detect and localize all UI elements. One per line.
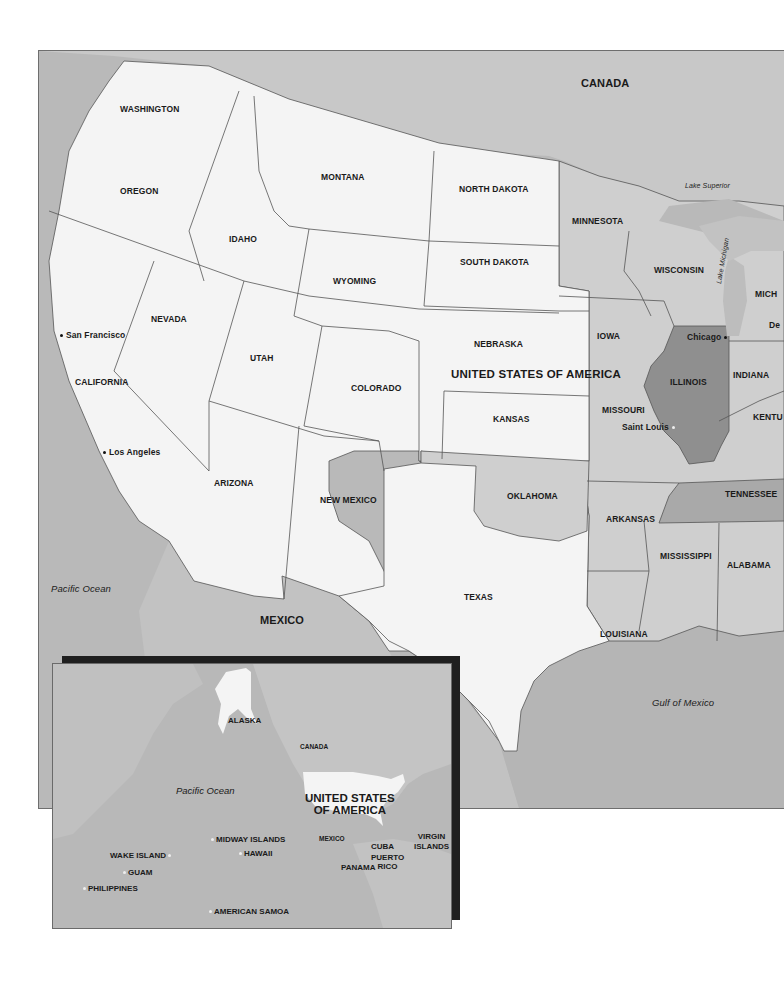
label-iowa: IOWA xyxy=(597,331,620,341)
label-kansas: KANSAS xyxy=(493,414,530,424)
label-wyoming: WYOMING xyxy=(333,276,376,286)
label-minnesota: MINNESOTA xyxy=(572,216,623,226)
label-missouri: MISSOURI xyxy=(602,405,645,415)
inset-asia-land xyxy=(53,664,203,839)
inset-label-virgin-islands: VIRGINISLANDS xyxy=(414,832,449,852)
label-arizona: ARIZONA xyxy=(214,478,253,488)
inset-label-alaska: ALASKA xyxy=(228,716,261,725)
island-marker-icon xyxy=(209,910,212,913)
city-dot-icon xyxy=(724,336,727,339)
label-oklahoma: OKLAHOMA xyxy=(507,491,558,501)
inset-label-panama: PANAMA xyxy=(341,863,376,872)
label-montana: MONTANA xyxy=(321,172,365,182)
label-pacific-ocean: Pacific Ocean xyxy=(51,583,111,594)
label-kentucky: KENTU xyxy=(753,412,783,422)
inset-label-wake-island: WAKE ISLAND xyxy=(110,851,173,860)
label-alabama: ALABAMA xyxy=(727,560,771,570)
label-gulf-of-mexico: Gulf of Mexico xyxy=(652,697,714,708)
city-dot-icon xyxy=(672,426,675,429)
inset-label-hawaii: HAWAII xyxy=(239,849,272,858)
label-louisiana: LOUISIANA xyxy=(600,629,648,639)
inset-label-midway: MIDWAY ISLANDS xyxy=(211,835,285,844)
label-usa: UNITED STATES OF AMERICA xyxy=(451,368,621,380)
label-mississippi: MISSISSIPPI xyxy=(660,551,712,561)
label-wisconsin: WISCONSIN xyxy=(654,265,704,275)
inset-world-map: ALASKA CANADA Pacific Ocean UNITED STATE… xyxy=(52,663,452,929)
label-indiana: INDIANA xyxy=(733,370,769,380)
city-los-angeles: Los Angeles xyxy=(100,447,160,457)
label-new-mexico: NEW MEXICO xyxy=(320,495,377,505)
label-utah: UTAH xyxy=(250,353,273,363)
label-tennessee: TENNESSEE xyxy=(725,489,777,499)
city-dot-icon xyxy=(103,451,106,454)
island-marker-icon xyxy=(83,887,86,890)
label-south-dakota: SOUTH DAKOTA xyxy=(460,257,529,267)
label-idaho: IDAHO xyxy=(229,234,257,244)
label-mexico: MEXICO xyxy=(260,614,304,626)
inset-label-guam: GUAM xyxy=(123,868,152,877)
label-lake-superior: Lake Superior xyxy=(685,182,730,189)
label-oregon: OREGON xyxy=(120,186,158,196)
inset-label-canada: CANADA xyxy=(300,743,328,750)
inset-label-mexico: MEXICO xyxy=(319,835,345,842)
inset-label-pacific-ocean: Pacific Ocean xyxy=(176,785,235,796)
label-texas: TEXAS xyxy=(464,592,493,602)
city-san-francisco: San Francisco xyxy=(57,330,125,340)
inset-label-cuba: CUBA xyxy=(371,842,394,851)
city-chicago: Chicago xyxy=(687,332,730,342)
island-marker-icon xyxy=(211,838,214,841)
label-detroit: De xyxy=(769,320,780,330)
inset-label-philippines: PHILIPPINES xyxy=(83,884,138,893)
label-arkansas: ARKANSAS xyxy=(606,514,655,524)
label-north-dakota: NORTH DAKOTA xyxy=(459,184,529,194)
label-michigan: MICH xyxy=(755,289,777,299)
label-illinois: ILLINOIS xyxy=(670,377,707,387)
city-saint-louis: Saint Louis xyxy=(622,422,678,432)
inset-label-usa: UNITED STATESOF AMERICA xyxy=(305,792,395,816)
label-nevada: NEVADA xyxy=(151,314,187,324)
label-nebraska: NEBRASKA xyxy=(474,339,523,349)
label-california: CALIFORNIA xyxy=(75,377,128,387)
island-marker-icon xyxy=(123,871,126,874)
label-washington: WASHINGTON xyxy=(120,104,179,114)
city-dot-icon xyxy=(60,334,63,337)
inset-label-american-samoa: AMERICAN SAMOA xyxy=(209,907,289,916)
label-canada: CANADA xyxy=(581,77,629,89)
label-colorado: COLORADO xyxy=(351,383,401,393)
island-marker-icon xyxy=(168,854,171,857)
tennessee-state xyxy=(659,479,784,523)
island-marker-icon xyxy=(239,852,242,855)
